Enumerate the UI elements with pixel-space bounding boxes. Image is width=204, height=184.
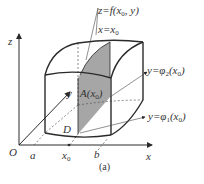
origin-label: O: [9, 147, 17, 158]
y-axis-label: y: [67, 88, 72, 99]
tick-b: b: [94, 149, 100, 160]
figure-caption: (a): [99, 162, 110, 172]
annotation-phi2: y=φ2(x0): [147, 65, 185, 78]
annotation-phi1: y=φ1(x0): [148, 111, 186, 124]
tick-a: a: [30, 150, 36, 161]
section-label: A(x0): [80, 88, 102, 101]
annotation-plane: x=x0: [98, 24, 119, 37]
z-axis-label: z: [8, 36, 12, 47]
x0-point: [68, 144, 71, 147]
tick-x0: x0: [62, 150, 70, 163]
region-label: D: [63, 124, 71, 135]
x-axis-label: x: [146, 151, 151, 162]
annotation-surface: z=f(x0, y): [98, 5, 139, 18]
